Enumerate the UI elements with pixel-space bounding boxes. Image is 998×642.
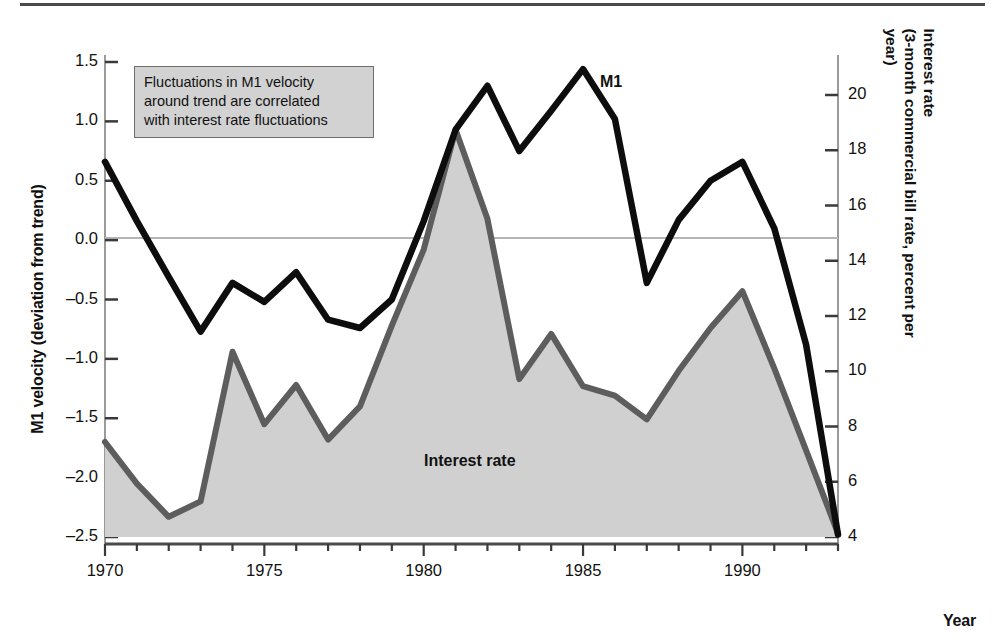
x-tick-label: 1985 <box>543 561 623 580</box>
right-axis-title-wrap: Interest rate (3-month commercial bill r… <box>880 20 920 360</box>
right-axis-title: Interest rate (3-month commercial bill r… <box>882 29 939 369</box>
right-tick-label: 8 <box>848 416 888 435</box>
annotation-box: Fluctuations in M1 velocity around trend… <box>134 66 374 138</box>
x-axis-title: Year <box>943 612 976 630</box>
interest-rate-area <box>105 130 838 537</box>
right-tick-label: 4 <box>848 526 888 545</box>
series-label-interest-rate: Interest rate <box>424 452 516 470</box>
x-axis-ticks <box>105 544 838 556</box>
right-tick-label: 6 <box>848 471 888 490</box>
x-tick-label: 1990 <box>702 561 782 580</box>
x-tick-label: 1970 <box>65 561 145 580</box>
left-axis-title: M1 velocity (deviation from trend) <box>29 49 47 569</box>
x-tick-label: 1980 <box>384 561 464 580</box>
x-tick-label: 1975 <box>224 561 304 580</box>
chart-figure: 1.51.00.50.0–0.5–1.0–1.5–2.0–2.5 2018161… <box>0 0 998 642</box>
series-label-m1: M1 <box>600 73 622 91</box>
